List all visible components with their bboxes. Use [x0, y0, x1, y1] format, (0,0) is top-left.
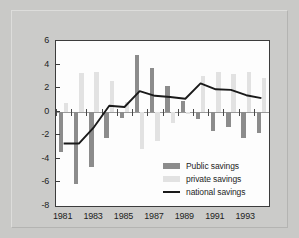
- legend-label-public: Public savings: [186, 161, 239, 171]
- national-savings-polyline: [64, 83, 262, 143]
- legend-swatch-national-line-icon: [163, 191, 180, 193]
- x-axis-tick-label: 1983: [78, 211, 108, 221]
- chart-legend: Public savings private savings national …: [163, 160, 271, 199]
- legend-item-public-savings: Public savings: [163, 160, 271, 172]
- x-axis-tick-label: 1987: [139, 211, 169, 221]
- legend-swatch-public-icon: [163, 163, 180, 169]
- y-axis-tick: [56, 134, 60, 135]
- x-axis-tick-label: 1991: [200, 211, 230, 221]
- figure-inner-frame: 6420-2-4-6-8 198119831985198719891991199…: [11, 10, 288, 228]
- y-axis-tick-label: 4: [25, 60, 49, 69]
- y-axis-tick: [56, 64, 60, 65]
- y-axis-tick: [56, 181, 60, 182]
- legend-label-private: private savings: [186, 174, 241, 184]
- y-axis-tick-label: -6: [25, 177, 49, 186]
- legend-item-private-savings: private savings: [163, 173, 271, 185]
- y-axis-tick: [56, 111, 60, 112]
- y-axis-tick: [56, 158, 60, 159]
- chart-figure: 6420-2-4-6-8 198119831985198719891991199…: [0, 0, 299, 238]
- y-axis-tick-label: -2: [25, 130, 49, 139]
- y-axis-tick-label: 0: [25, 107, 49, 116]
- y-axis-tick-label: 6: [25, 36, 49, 45]
- legend-item-national-savings: national savings: [163, 186, 271, 198]
- legend-swatch-private-icon: [163, 176, 180, 182]
- y-axis-tick-label: -4: [25, 154, 49, 163]
- x-axis-tick-label: 1985: [108, 211, 138, 221]
- x-axis-tick-label: 1989: [169, 211, 199, 221]
- y-axis-tick-label: -8: [25, 201, 49, 210]
- x-axis-tick-label: 1981: [48, 211, 78, 221]
- y-axis-tick: [56, 87, 60, 88]
- y-axis-tick-label: 2: [25, 83, 49, 92]
- legend-label-national: national savings: [186, 187, 245, 197]
- x-axis-tick-label: 1993: [230, 211, 260, 221]
